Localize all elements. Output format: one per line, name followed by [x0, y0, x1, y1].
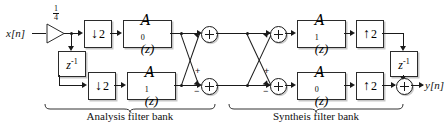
upsampler-top: ↑ 2 [356, 20, 384, 48]
downsample-top-factor: 2 [99, 28, 105, 40]
upsample-top-factor: 2 [371, 28, 377, 40]
upsampler-bottom: ↑ 2 [356, 72, 384, 100]
downsampler-bottom: ↓ 2 [88, 72, 116, 100]
output-signal-label: y[n] [425, 79, 444, 91]
wire-upsample-top-right [382, 33, 404, 34]
delay-synthesis-exponent: -1 [403, 57, 410, 66]
a1-analysis-name: A [145, 65, 159, 79]
allpass-a0-analysis: A0(z) [123, 20, 172, 48]
gain-value-label: 1 4 [49, 5, 63, 23]
gain-triangle [46, 23, 66, 44]
downsampler-top: ↓ 2 [84, 20, 112, 48]
arrow-into-a0-analysis [117, 30, 122, 36]
arrow-into-a1-analysis [121, 82, 126, 88]
wire-mid-top [216, 33, 250, 34]
arrow-into-upsample-top [350, 30, 355, 36]
arrow-into-a1-synthesis [291, 30, 296, 36]
a1-synthesis-name: A [315, 13, 329, 27]
a1-synthesis-arg: (z) [315, 42, 329, 55]
upsample-bottom-factor: 2 [371, 80, 377, 92]
a0-analysis-arg: (z) [141, 42, 155, 55]
adder-analysis-bottom [201, 78, 218, 95]
adder-analysis-top [201, 26, 218, 43]
input-signal-label: x[n] [6, 27, 25, 39]
wire-mid-bottom [216, 85, 250, 86]
delay-analysis-exponent: -1 [71, 57, 78, 66]
wire-input-to-gain [32, 33, 46, 34]
wire-delay-to-downsample-bottom [59, 85, 84, 86]
allpass-a1-analysis: A1(z) [127, 72, 176, 100]
caption-analysis: Analysis filter bank [44, 110, 216, 122]
delay-analysis: z-1 [58, 51, 86, 77]
allpass-a0-synthesis: A0(z) [297, 72, 346, 100]
adder-synthesis-bottom-plus-sign: + [264, 67, 269, 76]
arrow-into-downsample-top [78, 30, 83, 36]
downsample-top-arrow-glyph: ↓ [91, 27, 98, 41]
arrow-into-upsample-bottom [350, 82, 355, 88]
a0-analysis-name: A [141, 13, 155, 27]
adder-analysis-bottom-plus-sign: + [195, 67, 200, 76]
adder-synthesis-bottom [270, 78, 287, 95]
caption-synthesis: Syntheis filter bank [228, 110, 404, 122]
adder-synthesis-top [270, 26, 287, 43]
filter-bank-diagram: x[n] 1 4 ↓ 2 A0(z) z-1 [0, 0, 446, 132]
arrow-into-downsample-bottom [82, 82, 87, 88]
adder-analysis-bottom-minus-sign: − [194, 87, 199, 96]
upsample-top-arrow-glyph: ↑ [363, 27, 370, 41]
arrow-into-a0-synthesis [291, 82, 296, 88]
gain-numerator: 1 [49, 5, 63, 13]
delay-synthesis: z-1 [390, 51, 418, 77]
adder-synthesis-bottom-minus-sign: − [263, 87, 268, 96]
a0-synthesis-name: A [315, 65, 329, 79]
arrow-output [419, 82, 424, 88]
adder-output [396, 78, 413, 95]
allpass-a1-synthesis: A1(z) [297, 20, 346, 48]
downsample-bottom-arrow-glyph: ↓ [95, 79, 102, 93]
gain-denominator: 4 [49, 14, 63, 22]
downsample-bottom-factor: 2 [103, 80, 109, 92]
upsample-bottom-arrow-glyph: ↑ [363, 79, 370, 93]
